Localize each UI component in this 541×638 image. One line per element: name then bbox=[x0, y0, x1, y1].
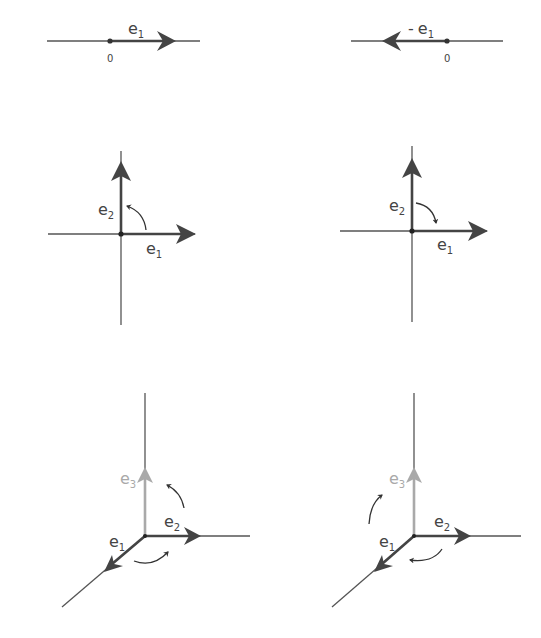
e3-label: e3 bbox=[120, 469, 136, 490]
origin-label: 0 bbox=[444, 53, 450, 64]
e2-label: e2 bbox=[434, 512, 450, 533]
e1-label: e1 bbox=[109, 532, 125, 553]
e1-label: e1 bbox=[146, 239, 162, 260]
origin-dot bbox=[409, 228, 414, 233]
panel-1d-positive: e1 0 bbox=[47, 19, 200, 64]
panel-2d-clockwise: e2 e1 bbox=[340, 146, 488, 322]
origin-label: 0 bbox=[107, 53, 113, 64]
rotation-arrow-lower-icon bbox=[134, 552, 168, 563]
panel-1d-negative: -e1 0 bbox=[351, 19, 503, 64]
origin-dot bbox=[118, 231, 123, 236]
e2-label: e2 bbox=[164, 512, 180, 533]
origin-dot bbox=[444, 38, 449, 43]
e1-label: e1 bbox=[128, 19, 144, 40]
rotation-arrow-counterclockwise-icon bbox=[127, 206, 146, 230]
panel-3d-left-handed: e3 e2 e1 bbox=[332, 393, 521, 607]
e1-label: e1 bbox=[379, 532, 395, 553]
e2-label: e2 bbox=[389, 196, 405, 217]
origin-dot bbox=[107, 38, 112, 43]
orientation-diagram: e1 0 -e1 0 e2 e1 e2 e1 bbox=[0, 0, 541, 638]
e2-label: e2 bbox=[98, 200, 114, 221]
origin-dot bbox=[143, 534, 147, 538]
rotation-arrow-clockwise-icon bbox=[416, 203, 436, 223]
e1-label: e1 bbox=[437, 235, 453, 256]
origin-dot bbox=[412, 534, 416, 538]
e3-label: e3 bbox=[389, 469, 405, 490]
panel-2d-counterclockwise: e2 e1 bbox=[48, 151, 196, 325]
rotation-arrow-lower-icon bbox=[410, 549, 442, 561]
rotation-arrow-upper-icon bbox=[369, 495, 382, 524]
rotation-arrow-upper-icon bbox=[167, 485, 184, 508]
neg-e1-label: -e1 bbox=[408, 19, 434, 40]
panel-3d-right-handed: e3 e2 e1 bbox=[62, 393, 250, 607]
